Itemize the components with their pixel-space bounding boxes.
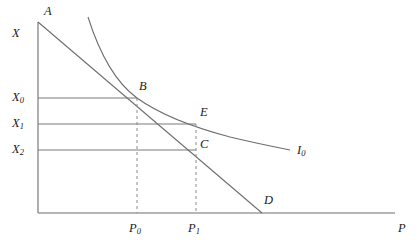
x-tick-p1-sub: 1: [196, 226, 200, 236]
y-tick-label-x1: X1: [12, 117, 24, 130]
y-tick-x2-base: X: [12, 142, 20, 156]
y-tick-label-x2: X2: [12, 143, 24, 156]
x-axis-label: P: [398, 222, 406, 235]
diagram-canvas: [0, 0, 415, 245]
y-tick-x0-base: X: [12, 90, 20, 104]
y-axis-label: X: [12, 27, 20, 40]
y-tick-x1-base: X: [12, 116, 20, 130]
economics-diagram: X P X0 X1 X2 P0 P1 A B E C D I0: [0, 0, 415, 245]
point-label-e: E: [200, 106, 208, 119]
x-tick-label-p0: P0: [129, 222, 141, 235]
point-label-c: C: [200, 138, 208, 151]
curve-label-i0-sub: 0: [301, 148, 305, 158]
x-tick-p0-base: P: [129, 221, 137, 235]
curve-label-i0: I0: [297, 144, 305, 157]
y-tick-x2-sub: 2: [20, 147, 24, 157]
x-tick-label-p1: P1: [188, 222, 200, 235]
x-tick-p0-sub: 0: [137, 226, 141, 236]
point-label-d: D: [264, 194, 273, 207]
indifference-curve-i0: [88, 17, 290, 150]
budget-line-ad: [38, 22, 262, 213]
y-tick-label-x0: X0: [12, 91, 24, 104]
point-label-a: A: [44, 5, 52, 18]
point-label-b: B: [139, 80, 147, 93]
y-tick-x0-sub: 0: [20, 95, 24, 105]
y-tick-x1-sub: 1: [20, 121, 24, 131]
x-tick-p1-base: P: [188, 221, 196, 235]
